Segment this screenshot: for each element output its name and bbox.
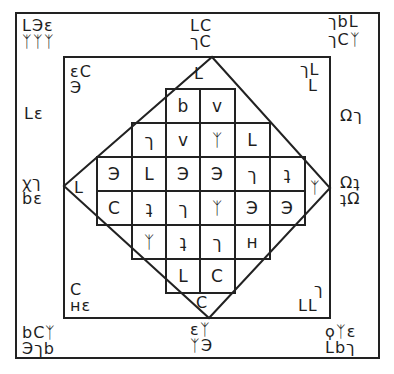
inner-bottom-right-glyphs-2: LԼ [298, 298, 317, 314]
grid-cell: ʜ [235, 225, 269, 259]
grid-cell: ך [166, 191, 200, 225]
grid-cell: Э [200, 157, 234, 191]
outer-top-center-glyphs-2: ךC [190, 34, 212, 50]
diamond-top-glyph: L [194, 66, 204, 82]
grid-cell: Э [235, 191, 269, 225]
outer-left-upper-glyphs: Lε [24, 106, 44, 122]
grid-cell: ך [235, 157, 269, 191]
grid-cell: Э [270, 191, 304, 225]
grid-cell: v [200, 89, 234, 123]
grid-cell: ᛉ [200, 191, 234, 225]
diamond-right-glyph: ᛉ [310, 180, 321, 196]
grid-cell: ʇ [132, 191, 166, 225]
diamond-left-glyph: L [74, 180, 84, 196]
grid-cell: ʇ [166, 225, 200, 259]
inner-bottom-left-glyphs-2: ʜε [70, 298, 91, 314]
grid-cell: C [200, 259, 234, 293]
grid-cell: Э [97, 157, 131, 191]
grid-cell: b [166, 89, 200, 123]
grid-cell: ך [132, 123, 166, 157]
outer-top-right-glyphs-1: ךbL [328, 14, 359, 30]
diamond-bottom-glyph: C [196, 295, 208, 311]
magic-square-seal: LЭε ᛉᛉᛉ ךbL ךCᛉ bCᛉ Эךb ϙᛉε Lbך LC ךC Lε… [0, 0, 394, 374]
outer-top-right-glyphs-2: ךCᛉ [328, 32, 361, 48]
grid-cell: ᛉ [200, 123, 234, 157]
outer-bottom-right-glyphs-2: Lbך [325, 340, 356, 356]
outer-bottom-center-glyphs-2: ᛉЭ [190, 338, 213, 354]
outer-bottom-left-glyphs-2: Эךb [22, 341, 55, 357]
inner-top-left-glyphs-2: Э [70, 80, 82, 96]
inner-top-right-glyphs-2: L [308, 78, 318, 94]
outer-top-left-glyphs-2: ᛉᛉᛉ [22, 34, 55, 50]
grid-cell: ʇ [270, 157, 304, 191]
grid-cell: v [166, 123, 200, 157]
outer-right-center-glyphs-2: ʇΩ [340, 191, 361, 207]
outer-right-upper-glyphs: Ωך [340, 108, 363, 124]
grid-cell: Э [166, 157, 200, 191]
grid-cell: L [166, 259, 200, 293]
grid-cell: C [97, 191, 131, 225]
grid-cell: L [132, 157, 166, 191]
outer-left-center-glyphs-2: bε [22, 191, 43, 207]
grid-cell: L [235, 123, 269, 157]
grid-cell: ך [200, 225, 234, 259]
grid-cell: ᛉ [132, 225, 166, 259]
